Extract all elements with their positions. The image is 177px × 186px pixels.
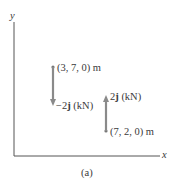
x-axis-label: x	[162, 149, 167, 161]
force-label-1: −2j (kN)	[56, 100, 93, 112]
force-label-2: 2j (kN)	[110, 91, 141, 103]
force-unit: (kN)	[119, 91, 141, 102]
force-unit: (kN)	[71, 100, 93, 111]
point-label-1: (3, 7, 0) m	[57, 62, 101, 74]
y-axis-label: y	[10, 10, 15, 22]
figure-caption: (a)	[81, 167, 93, 179]
force-arrow-up	[103, 95, 109, 133]
point-label-2: (7, 2, 0) m	[110, 126, 154, 138]
arrowhead-up-icon	[103, 95, 109, 102]
force-magnitude: −2	[56, 100, 67, 111]
diagram-canvas	[0, 0, 177, 186]
